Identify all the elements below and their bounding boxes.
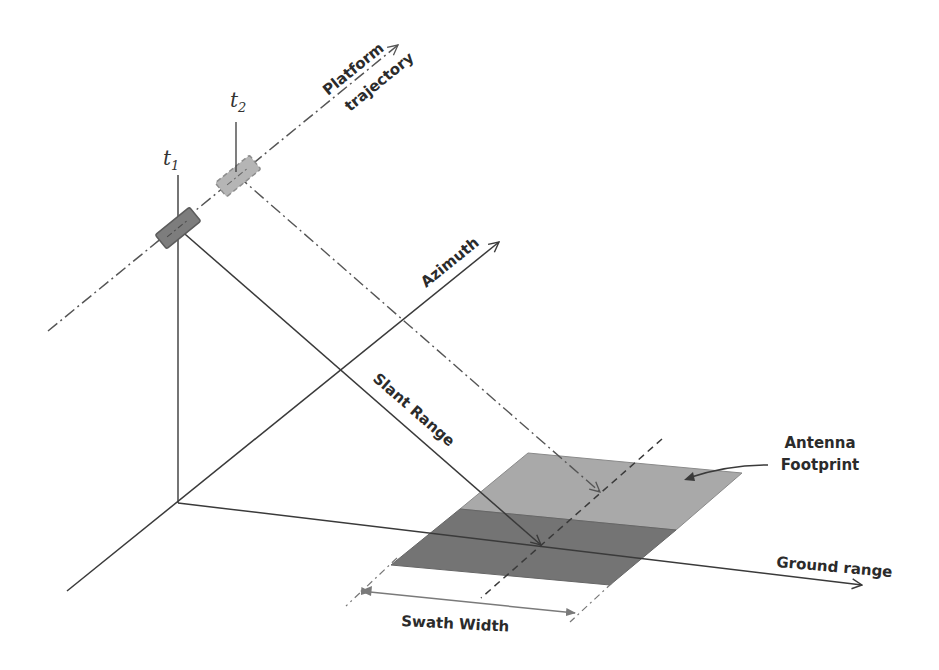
antenna-footprint — [391, 453, 742, 585]
slant-range-line — [178, 228, 541, 545]
slant-line-t2 — [238, 176, 600, 492]
swath-width-arrow — [370, 592, 575, 613]
platform-t2 — [215, 155, 261, 197]
antenna-footprint-label-line1: Antenna — [784, 434, 855, 452]
t2-label: t2 — [230, 88, 246, 115]
swath-boundary-near — [346, 558, 397, 606]
t1-label: t1 — [163, 146, 179, 173]
slant-range-label: Slant Range — [369, 369, 458, 450]
swath-width-label: Swath Width — [401, 612, 510, 636]
sar-geometry-diagram: t1 t2 Platform trajectory Azimuth Slant … — [0, 0, 939, 670]
antenna-footprint-label-line2: Footprint — [781, 456, 860, 474]
swath-width-arrowhead-left — [360, 586, 372, 596]
swath-boundary-far — [570, 583, 612, 622]
